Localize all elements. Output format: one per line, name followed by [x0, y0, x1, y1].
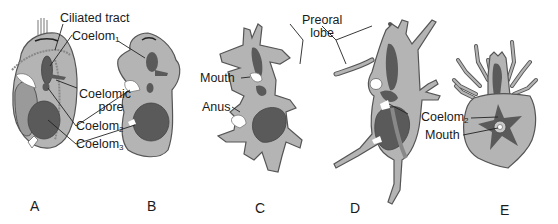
label-coelom2: Coelom2	[76, 120, 124, 136]
label-coelom3: Coelom3	[76, 138, 124, 154]
coelomic-pore-line2: pore	[79, 101, 131, 114]
label-preoral-lobe: Preoral lobe	[302, 14, 342, 40]
label-coelomic-pore: Coelomic pore	[79, 88, 131, 114]
coelom1-text: Coelom	[72, 29, 115, 43]
ciliated-tract-text: Ciliated tract	[60, 11, 129, 25]
coelom2-e-text: Coelom	[421, 110, 464, 124]
coelom1-subscript: 1	[115, 35, 119, 44]
coelom2-text: Coelom	[76, 119, 119, 133]
coelom3-subscript: 3	[119, 143, 123, 152]
larva-diagram: Ciliated tract Coelom1 Coelomic pore Coe…	[0, 0, 558, 224]
panel-letter-a: A	[30, 198, 39, 214]
coelom3-text: Coelom	[76, 137, 119, 151]
coelom2-subscript: 2	[119, 125, 123, 134]
mouth-c-text: Mouth	[200, 71, 235, 85]
label-anus-c: Anus	[202, 101, 231, 114]
preoral-line2: lobe	[302, 27, 342, 40]
label-mouth-e: Mouth	[425, 129, 460, 142]
mouth-e-text: Mouth	[425, 128, 460, 142]
panel-letter-b: B	[147, 198, 156, 214]
label-coelom1: Coelom1	[72, 30, 120, 46]
panel-letter-d: D	[350, 200, 360, 216]
larva-c	[218, 24, 302, 172]
panel-letter-e: E	[500, 202, 509, 218]
larva-a	[12, 18, 77, 148]
anus-c-text: Anus	[202, 100, 231, 114]
label-coelom2-e: Coelom2	[421, 111, 469, 127]
larva-e	[454, 42, 536, 168]
panel-letter-c: C	[255, 200, 265, 216]
coelom2-e-subscript: 2	[464, 116, 468, 125]
label-ciliated-tract: Ciliated tract	[60, 12, 129, 25]
label-mouth-c: Mouth	[200, 72, 235, 85]
